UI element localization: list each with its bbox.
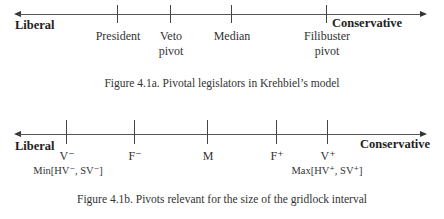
tick-median	[207, 120, 208, 144]
label-v-minus: V⁻	[60, 149, 75, 164]
conservative-label: Conservative	[360, 137, 430, 152]
liberal-label: Liberal	[15, 139, 55, 154]
tick-v-plus	[327, 120, 328, 144]
label-v-plus: V⁺	[321, 149, 336, 164]
sublabel-max: Max[HV⁺, SV⁺]	[291, 164, 362, 176]
label-f-minus: F⁻	[128, 149, 141, 164]
figure-caption-b: Figure 4.1b. Pivots relevant for the siz…	[0, 193, 444, 205]
sublabel-min: Min[HV⁻, SV⁻]	[33, 164, 102, 176]
tick-f-minus	[134, 120, 135, 144]
ideology-axis	[18, 134, 424, 135]
tick-v-minus	[66, 120, 67, 144]
label-f-plus: F⁺	[270, 149, 283, 164]
tick-f-plus	[276, 120, 277, 144]
figure-4-1b: Liberal Conservative V⁻ F⁻ M F⁺ V⁺ Min[H…	[0, 0, 444, 219]
label-median: M	[203, 149, 214, 164]
